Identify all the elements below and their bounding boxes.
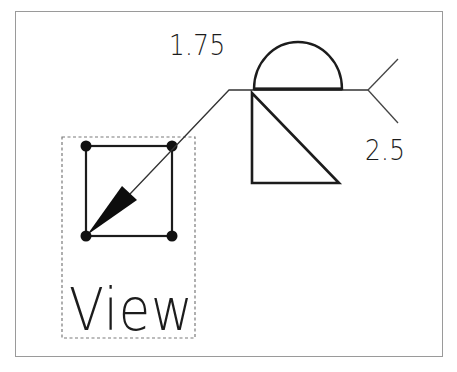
- leader-arrowhead-icon: [87, 186, 137, 235]
- cropped-caption: [20, 366, 440, 372]
- tail-upper-branch: [368, 59, 398, 90]
- tail-lower-branch: [368, 90, 398, 123]
- leader-line: [130, 90, 368, 194]
- lower-dimension-label: 2.5: [365, 133, 405, 167]
- corner-point-top-left-icon: [81, 141, 92, 152]
- view-label: View: [69, 276, 194, 344]
- upper-dimension-label: 1.75: [169, 28, 226, 62]
- fillet-weld-triangle-icon: [252, 93, 339, 183]
- corner-point-bottom-right-icon: [167, 231, 178, 242]
- semicircle-weld-symbol-icon: [254, 42, 342, 89]
- diagram-canvas: 1.75 2.5 View: [0, 0, 457, 372]
